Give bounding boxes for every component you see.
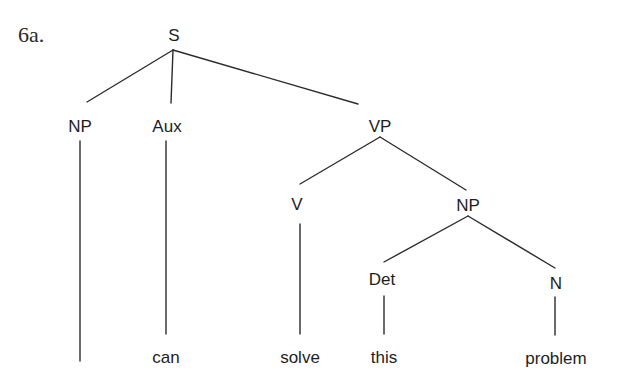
tree-edges bbox=[0, 0, 619, 387]
edge-s-aux bbox=[171, 50, 173, 103]
leaf-problem: problem bbox=[525, 350, 586, 367]
node-s: S bbox=[168, 27, 179, 44]
node-vp: VP bbox=[369, 118, 392, 135]
edge-s-np bbox=[87, 50, 173, 102]
node-np-object: NP bbox=[456, 197, 480, 214]
leaf-this: this bbox=[371, 349, 397, 366]
node-det: Det bbox=[369, 271, 395, 288]
edge-np-n bbox=[468, 216, 555, 268]
node-v: V bbox=[291, 196, 302, 213]
edge-np-det bbox=[384, 216, 468, 262]
edge-vp-np bbox=[380, 137, 466, 190]
edge-s-vp bbox=[173, 50, 358, 104]
node-np-subject: NP bbox=[68, 118, 92, 135]
leaf-can: can bbox=[152, 349, 179, 366]
leaf-solve: solve bbox=[280, 349, 320, 366]
edge-vp-v bbox=[300, 137, 380, 184]
node-n: N bbox=[550, 275, 562, 292]
node-aux: Aux bbox=[152, 118, 181, 135]
